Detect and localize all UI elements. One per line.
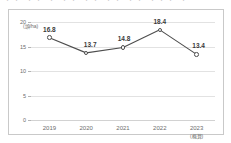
data-value-label: 16.8 <box>43 26 56 33</box>
data-point-marker <box>47 35 52 40</box>
data-point-marker <box>121 45 126 50</box>
y-axis-tick-mark <box>28 120 31 121</box>
x-axis-tick-label: 2020 <box>80 125 93 132</box>
x-axis-tick-label-year: 2021 <box>116 125 129 131</box>
cut-off-text-fragment: ・・ ・・ ・ ・・ ・・ ・・ ・・ ・・・ ・ <box>4 0 189 3</box>
x-axis-tick-label: 2021 <box>116 125 129 132</box>
y-axis-tick-label: 20 <box>20 19 26 25</box>
y-axis-tick-label: 10 <box>20 68 26 74</box>
data-value-label: 13.4 <box>192 42 205 49</box>
y-axis-tick-label: 0 <box>23 117 26 123</box>
x-axis-tick-label: 2022 <box>153 125 166 132</box>
y-axis-tick-label: 15 <box>20 44 26 50</box>
data-value-label: 14.8 <box>118 35 131 42</box>
x-axis-tick-label-note: (概算) <box>190 133 203 139</box>
data-value-label: 18.4 <box>153 18 166 25</box>
x-axis-tick-label-year: 2019 <box>43 125 56 131</box>
x-axis-tick-label: 2019 <box>43 125 56 132</box>
data-point-marker <box>158 28 163 33</box>
plot-area: 20151050 16.813.714.818.413.4 2019202020… <box>31 22 215 120</box>
data-value-label: 13.7 <box>84 41 97 48</box>
x-axis-tick-label-year: 2023 <box>190 125 203 131</box>
y-axis-tick-label: 5 <box>23 93 26 99</box>
x-axis-tick-label-year: 2022 <box>153 125 166 131</box>
x-axis-tick-label-year: 2020 <box>80 125 93 131</box>
chart-frame: (頭/ha) 20151050 16.813.714.818.413.4 201… <box>8 9 224 135</box>
x-axis-tick-label: 2023(概算) <box>190 125 203 139</box>
cut-off-text-strip: ・・ ・・ ・ ・・ ・・ ・・ ・・ ・・・ ・ <box>0 0 231 6</box>
data-point-marker <box>194 52 199 57</box>
gridline <box>31 120 215 121</box>
